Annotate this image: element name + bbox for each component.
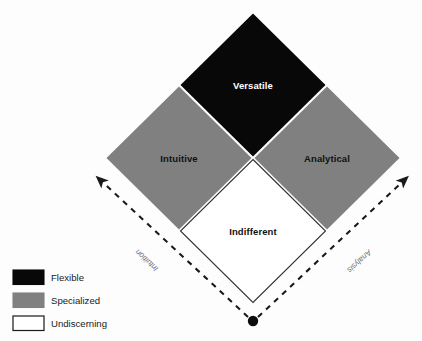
legend-label-undiscerning: Undiscerning <box>51 318 107 329</box>
intuition-axis-label: Intuition <box>133 247 160 273</box>
versatile-label: Versatile <box>233 80 273 91</box>
intuitive-label: Intuitive <box>160 153 197 164</box>
legend-label-flexible: Flexible <box>51 272 84 283</box>
legend: Flexible Specialized Undiscerning <box>13 270 107 331</box>
analysis-axis-label: Analysis <box>345 247 374 275</box>
legend-swatch-flexible <box>13 270 44 285</box>
indifferent-label: Indifferent <box>229 226 277 237</box>
origin-dot <box>248 316 258 326</box>
legend-item-specialized[interactable]: Specialized <box>13 293 100 308</box>
diagram-canvas: Intuition Analysis Versatile Intuitive A… <box>0 0 422 341</box>
legend-swatch-specialized <box>13 293 44 308</box>
legend-item-flexible[interactable]: Flexible <box>13 270 84 285</box>
legend-label-specialized: Specialized <box>51 295 100 306</box>
legend-swatch-undiscerning <box>13 316 44 331</box>
analytical-label: Analytical <box>304 153 350 164</box>
legend-item-undiscerning[interactable]: Undiscerning <box>13 316 107 331</box>
